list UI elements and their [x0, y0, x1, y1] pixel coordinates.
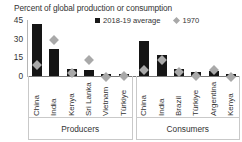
marker-1970 [84, 55, 94, 65]
category-box-producers [28, 76, 133, 118]
y-axis: 0153045 [0, 20, 26, 76]
marker-1970 [49, 35, 59, 45]
group-box-consumers: Consumers [136, 118, 241, 140]
y-axis-tick: 15 [14, 52, 23, 62]
y-axis-tick: 0 [18, 71, 23, 81]
chart-title: Percent of global production or consumpt… [14, 3, 172, 13]
plot-area [28, 20, 240, 76]
category-box-consumers [136, 76, 241, 118]
group-box-producers: Producers [28, 118, 133, 140]
series-layer [28, 20, 240, 76]
group-label: Consumers [167, 124, 209, 134]
bar [49, 49, 59, 76]
y-axis-tick: 30 [14, 34, 23, 44]
group-label: Producers [61, 124, 99, 134]
y-axis-tick: 45 [14, 15, 23, 25]
chart-container: Percent of global production or consumpt… [0, 0, 242, 142]
